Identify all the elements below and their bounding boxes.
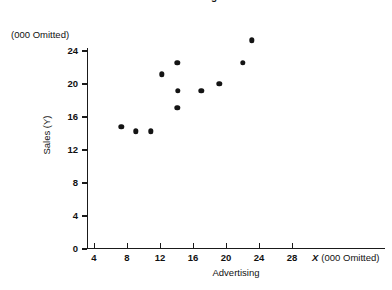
x-tick-label-20: 20	[221, 252, 232, 263]
data-point	[240, 60, 245, 65]
y-tick-8	[82, 182, 87, 183]
data-point	[148, 128, 153, 133]
data-point	[175, 88, 180, 93]
y-tick-16	[82, 116, 87, 117]
x-tick-label-4: 4	[91, 252, 96, 263]
x-axis-symbol: X	[312, 252, 318, 263]
x-tick-12	[160, 243, 161, 248]
x-tick-label-16: 16	[188, 252, 199, 263]
y-axis-line	[87, 48, 88, 249]
data-point	[249, 38, 254, 43]
data-point	[175, 105, 180, 110]
x-axis-line	[87, 248, 385, 249]
y-tick-label-12: 12	[53, 144, 78, 155]
x-tick-label-24: 24	[254, 252, 265, 263]
x-tick-20	[226, 243, 227, 248]
x-tick-label-12: 12	[155, 252, 166, 263]
y-tick-label-8: 8	[53, 177, 78, 188]
y-tick-label-16: 16	[53, 111, 78, 122]
y-tick-label-24: 24	[53, 45, 78, 56]
y-tick-0	[82, 248, 87, 249]
scatter-plot: 04812162024 481216202428 Sales (Y) Adver…	[0, 0, 392, 290]
x-axis-unit-note: X(000 Omitted)	[312, 252, 379, 263]
data-point	[175, 60, 180, 65]
data-point	[118, 124, 123, 129]
y-tick-20	[82, 83, 87, 84]
x-tick-label-8: 8	[124, 252, 129, 263]
y-tick-24	[82, 50, 87, 51]
x-tick-28	[292, 243, 293, 248]
x-tick-16	[193, 243, 194, 248]
y-tick-label-0: 0	[53, 243, 78, 254]
data-point	[217, 81, 222, 86]
y-tick-12	[82, 149, 87, 150]
x-tick-24	[259, 243, 260, 248]
y-axis-title: Sales (Y)	[41, 115, 52, 154]
x-tick-label-28: 28	[287, 252, 298, 263]
x-axis-title: Advertising	[213, 267, 260, 278]
y-tick-label-4: 4	[53, 210, 78, 221]
chart-page: Scatter Diagram (000 Omitted) 0481216202…	[0, 0, 392, 290]
data-point	[159, 71, 164, 76]
x-tick-4	[94, 243, 95, 248]
data-point	[133, 128, 138, 133]
y-tick-4	[82, 215, 87, 216]
x-tick-8	[127, 243, 128, 248]
data-point	[199, 88, 204, 93]
y-tick-label-20: 20	[53, 78, 78, 89]
x-axis-unit-text: (000 Omitted)	[321, 252, 379, 263]
